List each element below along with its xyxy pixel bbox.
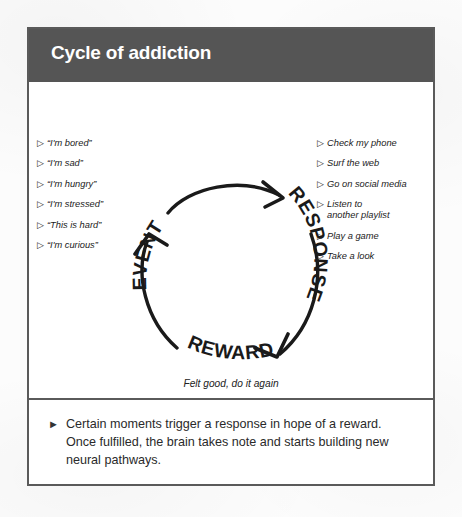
response-item-label: Check my phone — [327, 138, 433, 149]
response-item: ▷ Check my phone — [317, 138, 433, 149]
response-item-label: Surf the web — [327, 158, 433, 169]
triangle-bullet-icon: ▷ — [37, 138, 44, 149]
stage-label-reward-text: REWARD — [185, 331, 276, 364]
triangle-bullet-icon: ▷ — [37, 240, 44, 251]
diagram-area: .arc { fill: none; stroke: #1a1a1a; stro… — [29, 82, 433, 398]
trigger-item: ▷ “This is hard” — [37, 220, 157, 231]
triangle-bullet-icon: ▷ — [317, 138, 324, 149]
triangle-bullet-icon: ▷ — [37, 220, 44, 231]
response-item-label: Take a look — [327, 251, 433, 262]
triangle-bullet-icon: ▷ — [317, 179, 324, 190]
arrow-event-to-response — [168, 182, 283, 213]
triangle-bullet-icon: ▷ — [37, 158, 44, 169]
figure-title: Cycle of addiction — [51, 42, 211, 64]
triangle-bullet-icon: ▷ — [317, 158, 324, 169]
figure-header-bar: Cycle of addiction — [29, 29, 433, 82]
stage-label-reward: REWARD — [185, 331, 276, 364]
response-item-label: Play a game — [327, 231, 433, 242]
trigger-item: ▷ “I'm stressed” — [37, 199, 157, 210]
trigger-item: ▷ “I'm curious” — [37, 240, 157, 251]
response-item: ▷ Take a look — [317, 251, 433, 262]
trigger-item-label: “I'm curious” — [47, 240, 157, 251]
triangle-bullet-icon: ▷ — [317, 199, 324, 210]
triangle-bullet-icon: ▷ — [317, 251, 324, 262]
trigger-item: ▷ “I'm sad” — [37, 158, 157, 169]
figure-container: Cycle of addiction .arc { fill: none; st… — [27, 27, 435, 486]
trigger-item-label: “I'm hungry” — [47, 179, 157, 190]
caption-inner: ► Certain moments trigger a response in … — [48, 416, 413, 470]
trigger-item-label: “I'm bored” — [47, 138, 157, 149]
response-item: ▷ Play a game — [317, 231, 433, 242]
caption-box: ► Certain moments trigger a response in … — [29, 400, 433, 484]
response-item: ▷ Listen to another playlist — [317, 199, 433, 221]
filled-triangle-bullet-icon: ► — [48, 417, 59, 433]
trigger-item: ▷ “I'm bored” — [37, 138, 157, 149]
trigger-item: ▷ “I'm hungry” — [37, 179, 157, 190]
trigger-item-label: “This is hard” — [47, 220, 157, 231]
reward-caption: Felt good, do it again — [183, 378, 278, 389]
response-item-label: Listen to another playlist — [327, 199, 433, 221]
trigger-item-label: “I'm sad” — [47, 158, 157, 169]
response-item: ▷ Surf the web — [317, 158, 433, 169]
triggers-list: ▷ “I'm bored” ▷ “I'm sad” ▷ “I'm hungry”… — [37, 138, 157, 261]
triangle-bullet-icon: ▷ — [37, 199, 44, 210]
responses-list: ▷ Check my phone ▷ Surf the web ▷ Go on … — [317, 138, 433, 272]
response-item: ▷ Go on social media — [317, 179, 433, 190]
caption-text: Certain moments trigger a response in ho… — [66, 416, 413, 470]
triangle-bullet-icon: ▷ — [317, 231, 324, 242]
response-item-label: Go on social media — [327, 179, 433, 190]
trigger-item-label: “I'm stressed” — [47, 199, 157, 210]
triangle-bullet-icon: ▷ — [37, 179, 44, 190]
